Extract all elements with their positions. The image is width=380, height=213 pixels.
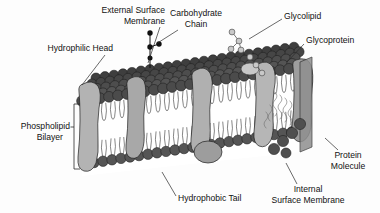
label-glycoprotein: Glycoprotein: [306, 35, 354, 45]
peripheral-protein-inner: [194, 141, 222, 163]
label-external-surface-membrane-line2: Membrane: [124, 16, 165, 26]
label-carbohydrate-chain-line2: Chain: [185, 19, 208, 29]
label-hydrophobic-tail: Hydrophobic Tail: [178, 193, 241, 203]
transmembrane-protein-center: [191, 68, 212, 153]
label-internal-surface-membrane-line1: Internal: [294, 184, 323, 194]
label-glycolipid: Glycolipid: [284, 11, 321, 21]
label-protein-molecule-line2: Molecule: [331, 161, 366, 171]
label-phospholipid-bilayer-line2: Bilayer: [37, 132, 63, 142]
transmembrane-protein-mid-left: [126, 77, 146, 159]
cell-membrane-diagram: External Surface Membrane Carbohydrate C…: [0, 0, 380, 213]
membrane-right-side-face: [300, 57, 312, 152]
label-internal-surface-membrane-line2: Surface Membrane: [271, 195, 344, 205]
label-protein-molecule-line1: Protein: [334, 150, 361, 160]
label-external-surface-membrane-line1: External Surface: [101, 5, 165, 15]
diagram-canvas: External Surface Membrane Carbohydrate C…: [0, 0, 380, 213]
transmembrane-protein-left: [78, 82, 100, 171]
label-carbohydrate-chain-line1: Carbohydrate: [170, 8, 222, 18]
label-hydrophilic-head: Hydrophilic Head: [48, 43, 114, 53]
label-phospholipid-bilayer-line1: Phospholipid: [21, 121, 70, 131]
